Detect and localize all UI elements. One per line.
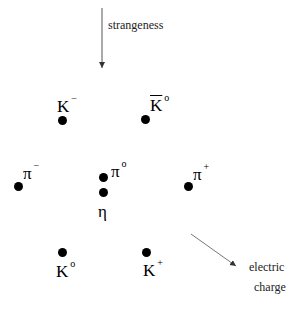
strangeness-label: strangeness — [108, 19, 163, 31]
particle-symbol: K — [56, 262, 68, 281]
particle-symbol: η — [98, 202, 107, 221]
particle-charge: o — [70, 258, 75, 269]
particle-symbol: K — [150, 96, 162, 115]
k0-bar-label: Ko — [150, 97, 169, 114]
k-minus-label: K− — [57, 98, 77, 115]
pi-zero-dot — [99, 173, 108, 182]
k-zero-dot — [58, 248, 67, 257]
charge-label: charge — [254, 281, 286, 293]
k-plus-label: K+ — [143, 262, 163, 279]
pi-plus-label: π+ — [193, 166, 209, 183]
particle-symbol: K — [143, 261, 155, 280]
particle-charge: − — [71, 93, 77, 104]
pi-zero-label: πo — [111, 163, 127, 180]
electric-label: electric — [249, 261, 284, 273]
particle-symbol: K — [57, 97, 69, 116]
pi-plus-dot — [184, 182, 193, 191]
pi-minus-label: π− — [23, 165, 39, 182]
pi-minus-dot — [14, 182, 23, 191]
particle-symbol: π — [193, 165, 202, 184]
eta-dot — [99, 188, 108, 197]
eta-label: η — [98, 203, 107, 220]
charge-arrow-icon — [191, 234, 236, 266]
k-zero-label: Ko — [56, 263, 75, 280]
particle-symbol: π — [111, 162, 120, 181]
particle-charge: + — [204, 161, 210, 172]
particle-charge: o — [164, 92, 169, 103]
particle-symbol: π — [23, 164, 32, 183]
k-plus-dot — [142, 248, 151, 257]
particle-charge: o — [122, 158, 127, 169]
meson-octet-diagram: strangeness electric charge K−Koπ−πoηπ+K… — [0, 0, 296, 309]
particle-charge: + — [157, 257, 163, 268]
k0-bar-dot — [141, 115, 150, 124]
particle-charge: − — [34, 160, 40, 171]
k-minus-dot — [58, 116, 67, 125]
